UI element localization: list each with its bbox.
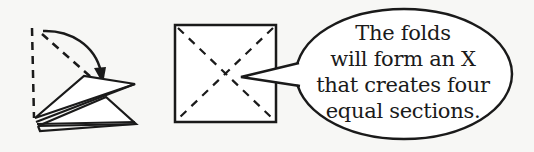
bubble-line-1: The folds [300,20,506,46]
bubble-line-2: will form an X [300,46,506,72]
bubble-line-3: that creates four [300,72,506,98]
bubble-line-4: equal sections. [300,98,506,124]
fold-arrow-icon [43,31,101,72]
dashed-fold-line [42,34,92,78]
dashed-edge-line [32,28,34,118]
fold-step-illustration [32,28,136,131]
speech-bubble-text: The folds will form an X that creates fo… [300,20,506,124]
